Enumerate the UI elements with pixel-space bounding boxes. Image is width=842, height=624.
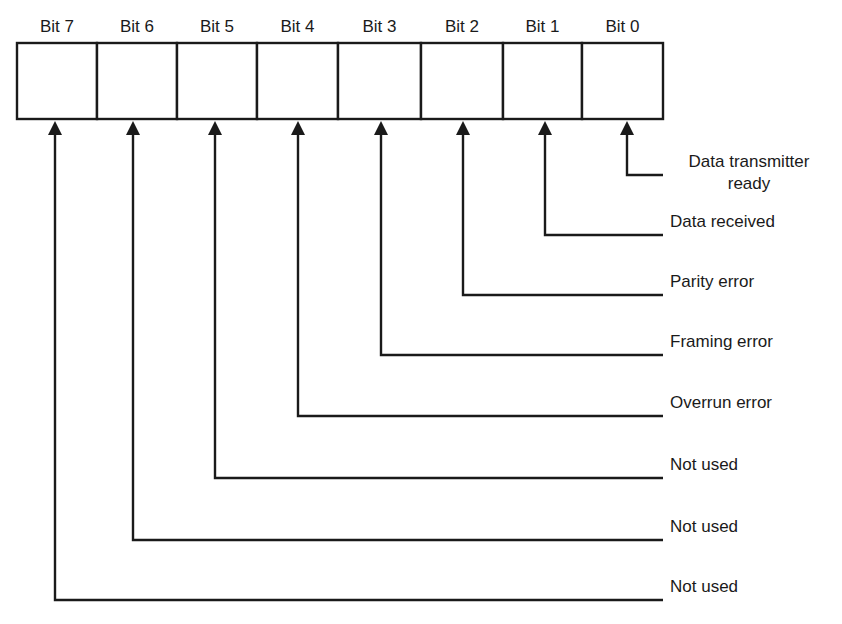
- bit-label-1: Bit 1: [525, 17, 559, 36]
- register-cell-bit-0: [582, 43, 663, 119]
- register-cells: [17, 43, 663, 119]
- bit-description-line: Data transmitter: [689, 152, 810, 171]
- arrow-up-icon: [291, 121, 305, 135]
- arrow-up-icon: [48, 121, 62, 135]
- leader-line-bit-7: [55, 133, 663, 600]
- bit-description-7: Not used: [670, 577, 738, 596]
- arrow-up-icon: [126, 121, 140, 135]
- bit-label-5: Bit 5: [200, 17, 234, 36]
- bit-label-4: Bit 4: [280, 17, 314, 36]
- arrow-up-icon: [208, 121, 222, 135]
- register-cell-bit-5: [177, 43, 257, 119]
- bit-description-2: Parity error: [670, 272, 754, 291]
- bit-label-0: Bit 0: [605, 17, 639, 36]
- register-cell-bit-4: [257, 43, 338, 119]
- bit-description-6: Not used: [670, 517, 738, 536]
- bit-label-6: Bit 6: [120, 17, 154, 36]
- arrow-up-icon: [620, 121, 634, 135]
- bit-descriptions: Not usedNot usedNot usedOverrun errorFra…: [670, 152, 810, 596]
- bit-description-4: Overrun error: [670, 393, 772, 412]
- bit-description-3: Framing error: [670, 332, 773, 351]
- leader-line-bit-1: [545, 133, 663, 235]
- arrow-up-icon: [538, 121, 552, 135]
- bit-description-5: Not used: [670, 455, 738, 474]
- status-register-diagram: Bit 7Bit 6Bit 5Bit 4Bit 3Bit 2Bit 1Bit 0…: [0, 0, 842, 624]
- arrow-up-icon: [374, 121, 388, 135]
- bit-description-0: Data transmitterready: [689, 152, 810, 193]
- register-cell-bit-7: [17, 43, 97, 119]
- leader-line-bit-5: [215, 133, 663, 478]
- register-cell-bit-2: [421, 43, 503, 119]
- register-cell-bit-1: [503, 43, 582, 119]
- leader-line-bit-3: [381, 133, 663, 355]
- bit-label-3: Bit 3: [362, 17, 396, 36]
- bit-description-1: Data received: [670, 212, 775, 231]
- leader-line-bit-2: [463, 133, 663, 295]
- leader-lines: [48, 121, 663, 600]
- bit-label-7: Bit 7: [40, 17, 74, 36]
- register-cell-bit-3: [338, 43, 421, 119]
- bit-label-2: Bit 2: [445, 17, 479, 36]
- bit-labels: Bit 7Bit 6Bit 5Bit 4Bit 3Bit 2Bit 1Bit 0: [40, 17, 640, 36]
- register-cell-bit-6: [97, 43, 177, 119]
- leader-line-bit-0: [627, 133, 663, 175]
- arrow-up-icon: [456, 121, 470, 135]
- leader-line-bit-4: [298, 133, 663, 416]
- bit-description-line: ready: [728, 174, 771, 193]
